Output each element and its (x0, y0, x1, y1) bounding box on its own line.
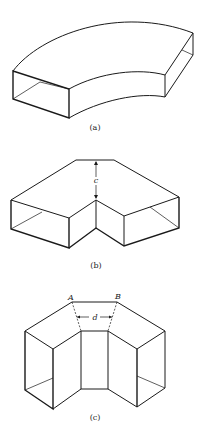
caption-b: (b) (90, 261, 101, 270)
dimension-d: d (92, 313, 97, 322)
panel-a-radius-elbow (13, 22, 193, 118)
panel-b-mitered-elbow (11, 160, 179, 248)
point-label-b: B (114, 292, 121, 301)
dimension-c: c (94, 176, 99, 185)
duct-elbow-diagram: (a) c (b) A B d (c) (0, 0, 202, 431)
point-label-a: A (67, 293, 74, 302)
caption-a: (a) (89, 123, 100, 132)
caption-c: (c) (90, 413, 101, 422)
